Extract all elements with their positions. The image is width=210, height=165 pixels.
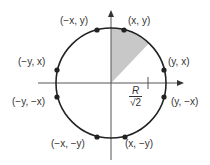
- label-x-negy: (x, −y): [125, 138, 153, 149]
- r-over-root2-label: R √2: [129, 85, 142, 109]
- point-y-negx: [161, 94, 166, 99]
- label-negx-y: (−x, y): [60, 15, 88, 26]
- label-negx-negy: (−x, −y): [51, 138, 85, 149]
- point-negx-y: [94, 27, 99, 32]
- label-negy-negx: (−y, −x): [12, 96, 45, 107]
- label-y-x: (y, x): [168, 56, 189, 67]
- fraction-denominator: √2: [129, 97, 142, 109]
- point-y-x: [161, 67, 166, 72]
- fraction-numerator: R: [129, 85, 142, 97]
- point-negy-negx: [54, 94, 59, 99]
- shaded-arc: [111, 28, 149, 83]
- point-negy-x: [54, 67, 59, 72]
- symmetry-diagram: [0, 0, 210, 165]
- label-x-y: (x, y): [128, 15, 150, 26]
- x-axis-arrow-icon: [177, 80, 184, 86]
- label-y-negx: (y, −x): [171, 96, 198, 107]
- point-x-y: [121, 27, 126, 32]
- label-negy-x: (−y, x): [18, 56, 45, 67]
- point-negx-negy: [94, 134, 99, 139]
- y-axis-arrow-icon: [108, 10, 114, 17]
